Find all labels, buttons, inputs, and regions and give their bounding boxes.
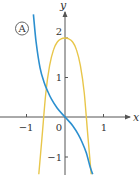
graph-badge-label: A [17,23,26,34]
x-tick-label: 0 [56,122,62,133]
y-tick-label: 2 [56,26,62,37]
y-tick-label: −1 [47,152,62,163]
x-tick-label: 1 [101,122,107,133]
y-axis-label: y [59,0,67,12]
chart-canvas: −1 0 1 2 1 −1 x y A [0,0,140,175]
y-tick-label: 1 [56,72,62,83]
x-axis-label: x [133,111,140,124]
x-tick-label: −1 [19,122,34,133]
x-axis-arrow-icon [125,115,131,120]
